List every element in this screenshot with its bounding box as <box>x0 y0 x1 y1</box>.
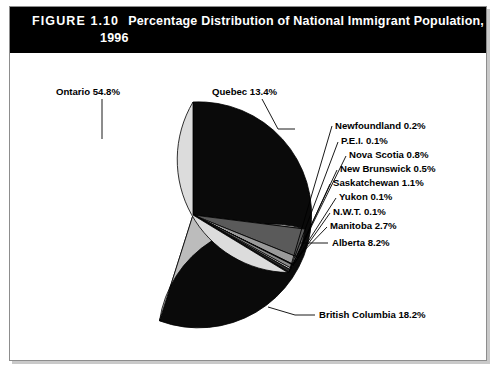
pie-slices <box>159 102 311 328</box>
slice-label-newfoundland: Newfoundland 0.2% <box>335 120 426 131</box>
figure-title-line-1: FIGURE 1.10Percentage Distribution of Na… <box>32 13 486 30</box>
slice-label-quebec: Quebec 13.4% <box>212 86 277 97</box>
slice-label-nova-scotia: Nova Scotia 0.8% <box>349 149 428 160</box>
figure-title-band: FIGURE 1.10Percentage Distribution of Na… <box>10 7 486 53</box>
slice-label-alberta: Alberta 8.2% <box>332 237 390 248</box>
figure-container: FIGURE 1.10Percentage Distribution of Na… <box>0 0 498 371</box>
slice-label-yukon: Yukon 0.1% <box>339 191 392 202</box>
slice-label-pei: P.E.I. 0.1% <box>341 135 388 146</box>
slice-label-nwt: N.W.T. 0.1% <box>333 206 386 217</box>
chart-plot-area: Ontario 54.8% Quebec 13.4% Newfoundland … <box>10 53 486 360</box>
figure-title-line-2: 1996 <box>32 30 486 47</box>
slice-label-saskatchewan: Saskatchewan 1.1% <box>333 177 424 188</box>
page-title: Percentage Distribution of National Immi… <box>128 14 484 28</box>
figure-number: FIGURE 1.10 <box>32 14 119 28</box>
slice-label-new-brunswick: New Brunswick 0.5% <box>340 163 435 174</box>
leader-line-british-columbia <box>268 307 315 315</box>
slice-label-british-columbia: British Columbia 18.2% <box>319 309 426 320</box>
slice-label-manitoba: Manitoba 2.7% <box>330 220 397 231</box>
slice-label-ontario: Ontario 54.8% <box>56 86 120 97</box>
